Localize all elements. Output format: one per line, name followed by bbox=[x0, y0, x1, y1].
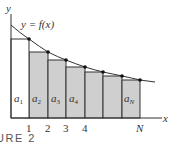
tick-label-4: 4 bbox=[82, 122, 88, 134]
shaded-rectangles bbox=[29, 52, 140, 118]
rect-a3 bbox=[48, 60, 66, 118]
x-axis-label: x bbox=[162, 112, 168, 124]
rect-a1 bbox=[11, 39, 29, 118]
y-axis-label: y bbox=[5, 2, 11, 14]
tick-label-N: N bbox=[135, 122, 144, 134]
tick-label-2: 2 bbox=[45, 122, 51, 134]
riemann-sum-figure: y x y = f(x) a1 a2 a3 a4 aN 1 2 3 4 N bbox=[0, 0, 174, 146]
rect-a6 bbox=[103, 76, 122, 118]
rect-a5 bbox=[85, 72, 103, 118]
curve-label: y = f(x) bbox=[20, 18, 54, 31]
figure-caption: URE 2 bbox=[0, 132, 36, 144]
tick-label-3: 3 bbox=[63, 122, 69, 134]
rect-a2 bbox=[29, 52, 48, 118]
